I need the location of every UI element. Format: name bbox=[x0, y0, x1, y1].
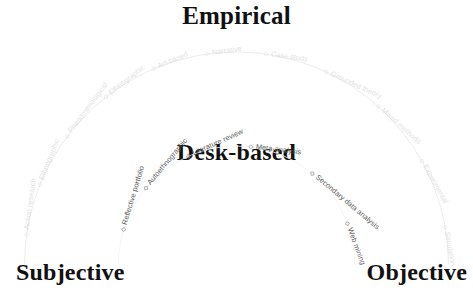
outer-arc-label: Case study bbox=[270, 49, 308, 63]
outer-arc-label: Ethnographic bbox=[106, 62, 146, 96]
arc-guide-lines bbox=[25, 52, 449, 264]
outer-arc-label: Action research bbox=[22, 178, 38, 230]
outer-arc-label: Art-based bbox=[156, 49, 189, 70]
outer-arc-labels: Action researchEthnographicPhenomenologi… bbox=[22, 44, 458, 267]
outer-arc-label: Simulation bbox=[443, 231, 458, 267]
outer-arc-label: Mixed methods bbox=[380, 106, 423, 146]
outer-arc-label: Grounded theory bbox=[329, 69, 383, 101]
inner-arc-label: Secondary data analysis bbox=[314, 173, 382, 232]
inner-arc-label: Web mining bbox=[346, 226, 368, 266]
outer-arc-label: Narrative bbox=[211, 44, 242, 57]
outer-arc-label: Phenomenological bbox=[66, 80, 110, 134]
inner-arc-label: Autoethnographic bbox=[145, 136, 189, 186]
inner-arc-label: Reflective portfolio bbox=[120, 165, 146, 226]
outer-arc-label: Experimental bbox=[421, 163, 450, 205]
inner-arc-label: Literature review bbox=[191, 127, 245, 158]
outer-arc-line bbox=[25, 52, 449, 264]
diagram-canvas: Empirical Desk-based Subjective Objectiv… bbox=[0, 0, 473, 308]
arc-spectrum-svg: Action researchEthnographicPhenomenologi… bbox=[0, 0, 473, 308]
inner-arc-labels: Reflective portfolioAutoethnographicLite… bbox=[120, 127, 382, 267]
inner-arc-label: Meta-analysis bbox=[255, 142, 302, 157]
inner-arc-line bbox=[119, 146, 355, 264]
outer-arc-label: Ethnographic bbox=[37, 137, 62, 181]
